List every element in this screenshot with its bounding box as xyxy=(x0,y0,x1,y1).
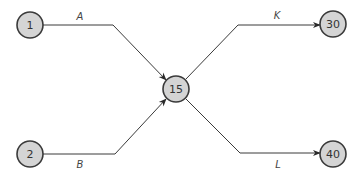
edge-k: K xyxy=(186,10,320,79)
edge-k-label: K xyxy=(274,10,282,21)
edge-b-label: B xyxy=(77,159,84,170)
node-1: 1 xyxy=(17,12,43,38)
node-40: 40 xyxy=(320,141,346,167)
node-1-label: 1 xyxy=(27,19,34,32)
edge-l: L xyxy=(186,99,320,170)
node-15-label: 15 xyxy=(169,83,183,96)
edge-b: B xyxy=(43,99,166,170)
node-40-label: 40 xyxy=(326,148,340,161)
edge-l-label: L xyxy=(275,159,281,170)
node-30: 30 xyxy=(320,11,346,37)
edge-a-label: A xyxy=(76,11,84,22)
node-2-label: 2 xyxy=(27,148,34,161)
edge-a: A xyxy=(43,11,166,80)
node-2: 2 xyxy=(17,141,43,167)
network-diagram: A B K L 1 2 15 30 40 xyxy=(0,0,361,179)
node-15: 15 xyxy=(163,76,189,102)
node-30-label: 30 xyxy=(326,18,340,31)
